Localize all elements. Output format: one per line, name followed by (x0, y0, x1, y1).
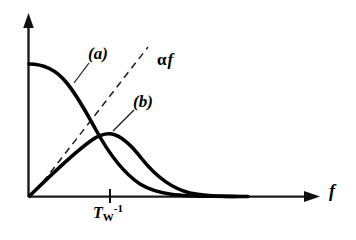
y-axis-arrowhead-icon (23, 13, 34, 28)
plot-canvas (0, 0, 356, 240)
curve-a-path (29, 64, 236, 197)
tangent-label-alpha: α (157, 50, 167, 69)
figure-container: (a) (b) αf f TW-1 (0, 0, 356, 240)
tick-label-subscript: W (103, 211, 114, 223)
leader-line-curve-a (74, 63, 89, 83)
x-axis-arrowhead-icon (304, 191, 320, 202)
curve-a-label: (a) (88, 45, 108, 62)
tangent-line-alpha-f (43, 47, 148, 182)
tangent-label: αf (157, 51, 173, 68)
tick-label-superscript: -1 (114, 202, 123, 214)
tick-label-base: T (93, 204, 103, 221)
tangent-label-f: f (167, 50, 174, 69)
x-axis-label: f (329, 182, 335, 200)
x-axis-tick-label: TW-1 (93, 203, 123, 223)
leader-line-curve-b (113, 110, 134, 131)
curve-b-path (30, 134, 249, 197)
curve-b-label: (b) (133, 93, 153, 110)
